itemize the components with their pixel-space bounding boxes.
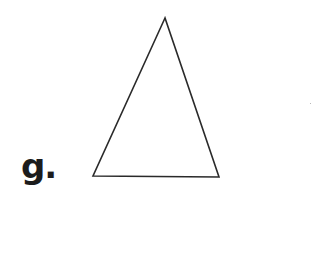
triangle-shape [93,18,219,177]
scan-artifact [310,103,311,104]
triangle-figure [0,0,319,257]
